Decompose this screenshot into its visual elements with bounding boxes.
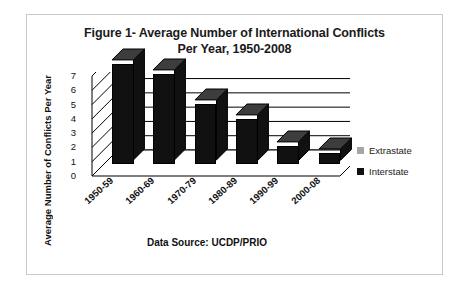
bar-3d-faces-2000-08 (319, 138, 355, 164)
y-tick-0: 0 (60, 171, 76, 181)
chart-legend: ExtrastateInterstate (357, 145, 442, 187)
plot-area: 01234567 1950-591960-691970-791980-89199… (60, 72, 350, 207)
bar-2000-08 (319, 153, 340, 164)
y-tick-6: 6 (60, 85, 76, 95)
bar-1980-89 (236, 119, 257, 165)
bar-3d-faces-1950-59 (112, 49, 148, 164)
x-tick-1990-99: 1990-99 (247, 175, 280, 207)
legend-swatch-icon-extrastate (357, 147, 364, 154)
bar-3d-faces-1960-69 (153, 59, 189, 164)
bar-1960-69 (153, 74, 174, 164)
x-tick-2000-08: 2000-08 (289, 175, 322, 207)
legend-label-interstate: Interstate (369, 166, 409, 177)
y-tick-3: 3 (60, 128, 76, 138)
bar-3d-faces-1970-79 (195, 89, 231, 164)
bar-1990-99 (277, 146, 298, 165)
chart-title: Figure 1- Average Number of Internationa… (27, 25, 442, 57)
bar-3d-faces-1980-89 (236, 104, 272, 165)
y-axis-tick-labels: 01234567 (60, 72, 76, 177)
legend-entry-extrastate[interactable]: Extrastate (357, 145, 442, 156)
bar-1970-79 (195, 104, 216, 164)
chart-title-line-1: Figure 1- Average Number of Internationa… (84, 26, 385, 40)
y-tick-1: 1 (60, 157, 76, 167)
x-tick-1950-59: 1950-59 (82, 175, 115, 207)
x-axis-tick-labels: 1950-591960-691970-791980-891990-992000-… (76, 176, 366, 236)
y-axis-title: Average Number of Conflicts Per Year (41, 73, 55, 248)
y-tick-2: 2 (60, 142, 76, 152)
legend-entry-interstate[interactable]: Interstate (357, 166, 442, 177)
figure-frame: Figure 1- Average Number of Internationa… (26, 14, 443, 275)
legend-label-extrastate: Extrastate (369, 145, 412, 156)
y-tick-4: 4 (60, 114, 76, 124)
x-tick-1970-79: 1970-79 (165, 175, 198, 207)
bar-1950-59 (112, 64, 133, 164)
chart-title-line-2: Per Year, 1950-2008 (27, 41, 442, 57)
x-tick-1960-69: 1960-69 (123, 175, 156, 207)
bar-3d-faces-1990-99 (277, 131, 313, 165)
data-source-caption: Data Source: UCDP/PRIO (57, 237, 357, 248)
legend-swatch-icon-interstate (357, 168, 364, 175)
y-tick-5: 5 (60, 100, 76, 110)
y-tick-7: 7 (60, 71, 76, 81)
x-tick-1980-89: 1980-89 (206, 175, 239, 207)
